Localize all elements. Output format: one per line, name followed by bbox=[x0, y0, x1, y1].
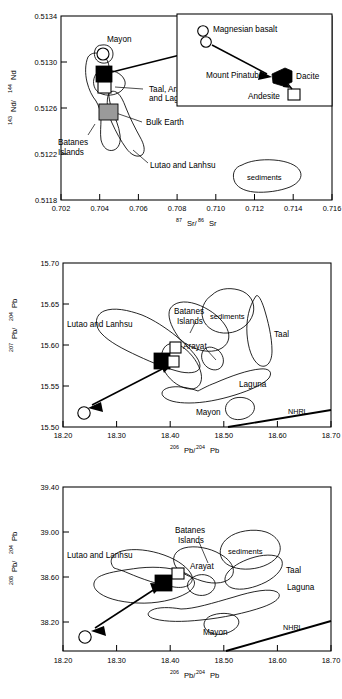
field-taal-pb207 bbox=[247, 296, 272, 367]
symbol-pinatubo-dacite bbox=[96, 66, 112, 82]
label-batanes-2-pb208: Islands bbox=[178, 536, 204, 545]
inset-label-andesite: Andesite bbox=[248, 92, 280, 101]
label-taal-pb207: Taal bbox=[274, 330, 289, 339]
y-axis-label-nd: 143 Nd/ 144 Nd bbox=[7, 70, 18, 125]
symbol-magnesian-basalt-pb207 bbox=[78, 407, 90, 419]
field-laguna-pb208 bbox=[148, 590, 279, 621]
y-axis-ticks-nd: 0.5134 0.5130 0.5126 0.5122 0.5118 bbox=[34, 12, 67, 205]
label-batanes-2-pb207: Islands bbox=[177, 317, 203, 326]
x-axis-label-sup1: 87 bbox=[176, 217, 182, 223]
leader-batanes bbox=[88, 124, 95, 135]
label-laguna-pb207: Laguna bbox=[239, 380, 267, 389]
y-axis-label-sup1: 208 bbox=[8, 576, 14, 585]
label-lutao-pb208: Lutao and Lanhsu bbox=[67, 551, 133, 560]
label-lutao: Lutao and Lanhsu bbox=[150, 161, 216, 170]
x-axis-label-base2: Sr bbox=[209, 219, 217, 228]
nd-sr-chart: 143 Nd/ 144 Nd 0.5134 0.5130 0.5126 0.51… bbox=[0, 0, 342, 232]
y-tick-label: 38.20 bbox=[41, 618, 60, 627]
inset-label-dacite: Dacite bbox=[296, 72, 320, 81]
symbol-magnesian-basalt-pb208 bbox=[79, 631, 91, 643]
y-tick-label: 39.00 bbox=[41, 528, 60, 537]
label-batanes-1-pb207: Batanes bbox=[174, 307, 204, 316]
leader-lutao bbox=[133, 150, 148, 163]
panel-nd-sr: 143 Nd/ 144 Nd 0.5134 0.5130 0.5126 0.51… bbox=[0, 0, 342, 232]
y-axis-ticks-pb208: 39.40 39.00 38.60 38.20 bbox=[41, 483, 70, 627]
label-arayat-pb207: Arayat bbox=[183, 342, 207, 351]
label-sediments-nd: sediments bbox=[247, 173, 282, 182]
y-axis-label-base2: Pb bbox=[10, 299, 19, 308]
y-tick-label: 15.65 bbox=[41, 300, 60, 309]
x-tick-label: 18.50 bbox=[215, 431, 234, 440]
x-axis-ticks-pb208: 18.20 18.30 18.40 18.50 18.60 18.70 bbox=[54, 645, 341, 665]
label-batanes-2: Islands bbox=[58, 148, 84, 157]
label-nhrl-pb208: NHRL bbox=[283, 623, 303, 632]
symbol-bulk-earth bbox=[99, 104, 118, 120]
symbol-pinatubo-andesite bbox=[98, 82, 111, 93]
label-batanes-1: Batanes bbox=[58, 138, 88, 147]
x-tick-label: 18.20 bbox=[54, 656, 73, 665]
y-axis-label-base: Pb/ bbox=[10, 327, 19, 339]
label-lutao-pb207: Lutao and Lanhsu bbox=[67, 320, 133, 329]
x-tick-label: 0.708 bbox=[168, 204, 187, 213]
x-axis-label-base2: Pb bbox=[210, 671, 219, 680]
x-tick-label: 18.70 bbox=[322, 431, 341, 440]
x-tick-label: 18.20 bbox=[54, 431, 73, 440]
inset-label-magnesian-basalt: Magnesian basalt bbox=[213, 25, 278, 34]
label-arayat-pb208: Arayat bbox=[190, 562, 214, 571]
y-axis-label-pb207: 207 Pb/ 204 Pb bbox=[8, 299, 19, 352]
label-mayon-pb207: Mayon bbox=[196, 408, 221, 417]
y-tick-label: 0.5130 bbox=[34, 58, 57, 67]
y-axis-label-sup2: 144 bbox=[7, 84, 13, 93]
x-axis-label-pb206: 206 Pb/ 204 Pb bbox=[170, 444, 219, 455]
inset-magnesian-basalt-circle-2 bbox=[201, 37, 212, 48]
inset-label-title: Mount Pinatubo bbox=[206, 71, 264, 80]
inset-mount-pinatubo: Magnesian basalt Dacite Mount Pinatubo A… bbox=[177, 14, 332, 106]
field-arayat-pb208 bbox=[188, 575, 216, 596]
inset-symbol-andesite bbox=[288, 89, 300, 100]
nhrl-line-pb208 bbox=[226, 621, 331, 651]
label-mayon-pb208: Mayon bbox=[203, 628, 228, 637]
x-tick-label: 18.60 bbox=[268, 431, 287, 440]
x-tick-label: 0.710 bbox=[207, 204, 226, 213]
x-axis-label-sup2: 204 bbox=[196, 669, 205, 675]
mixing-arrow-pb207 bbox=[88, 362, 173, 412]
x-axis-label-base: Pb/ bbox=[184, 671, 196, 680]
y-axis-label-base: Nd/ bbox=[9, 99, 18, 112]
pb208-chart: 208 Pb/ 204 Pb 39.40 39.00 38.60 38.20 1… bbox=[0, 465, 342, 699]
x-axis-label-sup2: 204 bbox=[196, 444, 205, 450]
x-tick-label: 18.60 bbox=[268, 656, 287, 665]
symbol-magnesian-basalt-circle bbox=[97, 48, 109, 60]
x-tick-label: 0.706 bbox=[129, 204, 148, 213]
panel-pb208: 208 Pb/ 204 Pb 39.40 39.00 38.60 38.20 1… bbox=[0, 465, 342, 699]
label-sediments-pb208: sediments bbox=[228, 547, 263, 556]
x-axis-label-sup1: 206 bbox=[170, 444, 179, 450]
x-tick-label: 0.702 bbox=[52, 204, 71, 213]
x-axis-label-base: Sr/ bbox=[187, 219, 198, 228]
x-axis-label-pb206-b: 206 Pb/ 204 Pb bbox=[170, 669, 219, 680]
field-lutao-lanhsu bbox=[107, 91, 144, 156]
x-tick-label: 18.70 bbox=[322, 656, 341, 665]
inset-magnesian-basalt-circle-1 bbox=[198, 26, 209, 37]
panel-pb207: 207 Pb/ 204 Pb 15.70 15.65 15.60 15.55 1… bbox=[0, 232, 342, 465]
symbol-pinatubo-andesite-lower-pb207 bbox=[168, 356, 179, 367]
label-mayon: Mayon bbox=[107, 35, 132, 44]
symbol-pinatubo-dacite-pb208 bbox=[155, 575, 172, 591]
label-bulk-earth: Bulk Earth bbox=[146, 118, 184, 127]
y-tick-label: 39.40 bbox=[41, 483, 60, 492]
x-tick-label: 0.704 bbox=[90, 204, 109, 213]
x-axis-label-sup1: 206 bbox=[170, 669, 179, 675]
x-tick-label: 18.40 bbox=[161, 656, 180, 665]
y-axis-label-pb208: 208 Pb/ 204 Pb bbox=[8, 532, 19, 585]
label-nhrl-pb207: NHRL bbox=[288, 407, 308, 416]
y-tick-label: 0.5126 bbox=[34, 104, 57, 113]
y-axis-ticks-pb207: 15.70 15.65 15.60 15.55 15.50 bbox=[41, 259, 70, 432]
y-tick-label: 0.5134 bbox=[34, 12, 57, 21]
x-axis-label-base2: Pb bbox=[210, 446, 219, 455]
label-batanes-1-pb208: Batanes bbox=[175, 526, 205, 535]
y-axis-label-sup2: 204 bbox=[8, 545, 14, 554]
y-axis-label-base: Pb/ bbox=[10, 560, 19, 572]
x-tick-label: 18.50 bbox=[215, 656, 234, 665]
y-tick-label: 38.60 bbox=[41, 573, 60, 582]
y-axis-label-sup1: 207 bbox=[8, 343, 14, 352]
x-tick-label: 18.30 bbox=[107, 431, 126, 440]
